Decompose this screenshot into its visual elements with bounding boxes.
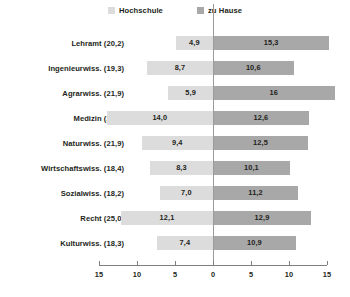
x-axis-tick	[213, 261, 214, 265]
x-axis-tick	[289, 261, 290, 265]
bar-value-label: 14,0	[152, 114, 167, 121]
bar-value-label: 12,1	[160, 214, 175, 221]
bar-rows: Lehramt (20,2)4,915,3Ingenieurwiss. (19,…	[0, 28, 350, 265]
bar-hochschule: 12,1	[121, 211, 213, 225]
category-label: Kulturwiss. (18,3)	[0, 231, 124, 256]
bar-zu-hause: 10,9	[213, 236, 296, 250]
bar-value-label: 15,3	[264, 39, 279, 46]
x-axis-tick-label: 10	[285, 271, 293, 278]
x-axis-line	[99, 265, 327, 266]
category-label: Naturwiss. (21,9)	[0, 131, 124, 156]
category-label: Agrarwiss. (21,9)	[0, 81, 124, 106]
x-axis-tick-label: 5	[173, 271, 177, 278]
x-axis-tick-label: 10	[133, 271, 141, 278]
category-label: Ingenieurwiss. (19,3)	[0, 56, 124, 81]
legend-swatch-hochschule	[108, 7, 115, 14]
bar-value-label: 8,7	[175, 64, 186, 71]
bar-zu-hause: 16	[213, 86, 335, 100]
x-axis-tick	[175, 261, 176, 265]
category-label: Wirtschaftswiss. (18,4)	[0, 156, 124, 181]
x-axis-tick-label: 5	[249, 271, 253, 278]
legend-item-hochschule: Hochschule	[108, 7, 163, 15]
bar-value-label: 12,6	[253, 114, 268, 121]
bar-hochschule: 8,7	[147, 61, 213, 75]
x-axis-tick	[327, 261, 328, 265]
chart-row: Kulturwiss. (18,3)7,410,9	[0, 231, 350, 256]
category-label: Recht (25,0)	[0, 206, 124, 231]
bar-value-label: 10,9	[247, 239, 262, 246]
bar-value-label: 4,9	[189, 39, 200, 46]
bar-value-label: 12,5	[253, 139, 268, 146]
x-axis-tick	[99, 261, 100, 265]
bar-value-label: 7,0	[181, 189, 192, 196]
chart-row: Ingenieurwiss. (19,3)8,710,6	[0, 56, 350, 81]
legend-swatch-zu-hause	[197, 7, 204, 14]
zero-axis-line	[213, 4, 214, 265]
chart-row: Naturwiss. (21,9)9,412,5	[0, 131, 350, 156]
chart-legend: Hochschulezu Hause	[0, 7, 350, 15]
legend-label: Hochschule	[119, 7, 163, 15]
category-label: Medizin (26,6)	[0, 106, 124, 131]
bar-zu-hause: 10,6	[213, 61, 294, 75]
bar-zu-hause: 15,3	[213, 36, 329, 50]
chart-row: Recht (25,0)12,112,9	[0, 206, 350, 231]
bar-zu-hause: 12,5	[213, 136, 308, 150]
bar-value-label: 10,6	[246, 64, 261, 71]
chart-row: Wirtschaftswiss. (18,4)8,310,1	[0, 156, 350, 181]
x-axis-tick	[251, 261, 252, 265]
x-axis-tick	[137, 261, 138, 265]
bar-hochschule: 7,4	[157, 236, 213, 250]
diverging-bar-chart: Hochschulezu Hause Lehramt (20,2)4,915,3…	[0, 0, 350, 297]
x-axis-tick-label: 15	[95, 271, 103, 278]
bar-value-label: 5,9	[185, 89, 196, 96]
category-label: Sozialwiss. (18,2)	[0, 181, 124, 206]
chart-row: Agrarwiss. (21,9)5,916	[0, 81, 350, 106]
bar-zu-hause: 12,6	[213, 111, 309, 125]
bar-hochschule: 7,0	[160, 186, 213, 200]
bar-hochschule: 9,4	[142, 136, 213, 150]
legend-item-zu-hause: zu Hause	[197, 7, 242, 15]
bar-zu-hause: 11,2	[213, 186, 298, 200]
chart-row: Sozialwiss. (18,2)7,011,2	[0, 181, 350, 206]
bar-zu-hause: 10,1	[213, 161, 290, 175]
chart-row: Medizin (26,6)14,012,6	[0, 106, 350, 131]
bar-value-label: 7,4	[180, 239, 191, 246]
bar-value-label: 9,4	[172, 139, 183, 146]
bar-zu-hause: 12,9	[213, 211, 311, 225]
bar-hochschule: 5,9	[168, 86, 213, 100]
bar-hochschule: 8,3	[150, 161, 213, 175]
bar-value-label: 8,3	[176, 164, 187, 171]
category-label: Lehramt (20,2)	[0, 31, 124, 56]
bar-value-label: 12,9	[255, 214, 270, 221]
bar-hochschule: 14,0	[107, 111, 213, 125]
bar-value-label: 10,1	[244, 164, 259, 171]
chart-row: Lehramt (20,2)4,915,3	[0, 31, 350, 56]
bar-value-label: 16	[270, 89, 278, 96]
x-axis-tick-label: 15	[323, 271, 331, 278]
bar-hochschule: 4,9	[176, 36, 213, 50]
plot-area: Lehramt (20,2)4,915,3Ingenieurwiss. (19,…	[0, 28, 350, 265]
x-axis-tick-label: 0	[211, 271, 215, 278]
bar-value-label: 11,2	[248, 189, 262, 196]
